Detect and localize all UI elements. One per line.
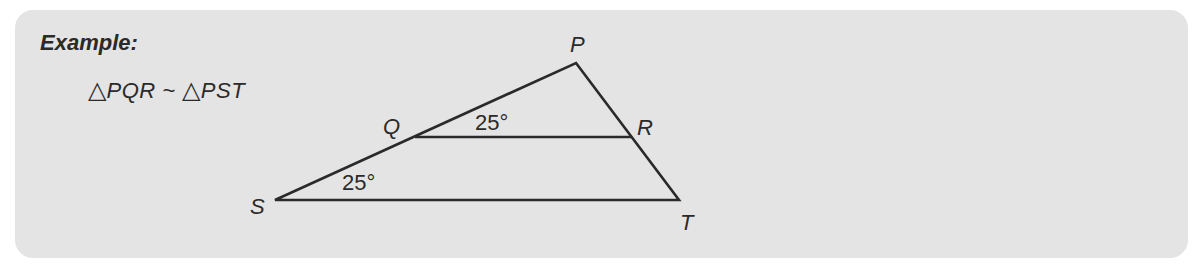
vertex-q-label: Q	[383, 114, 400, 139]
vertex-r-label: R	[637, 115, 653, 140]
angle-pst-label: 25°	[342, 170, 375, 195]
vertex-s-label: S	[250, 194, 265, 219]
angle-pqr-label: 25°	[475, 110, 508, 135]
vertex-t-label: T	[680, 210, 695, 235]
triangle-diagram: P Q R S T 25° 25°	[0, 0, 1198, 267]
vertex-p-label: P	[570, 32, 585, 57]
